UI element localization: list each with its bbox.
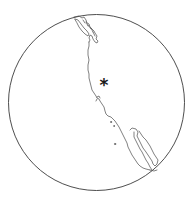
globe-outline	[9, 15, 185, 191]
asterisk-marker-icon: *	[100, 75, 109, 95]
globe-map: *	[0, 0, 193, 199]
